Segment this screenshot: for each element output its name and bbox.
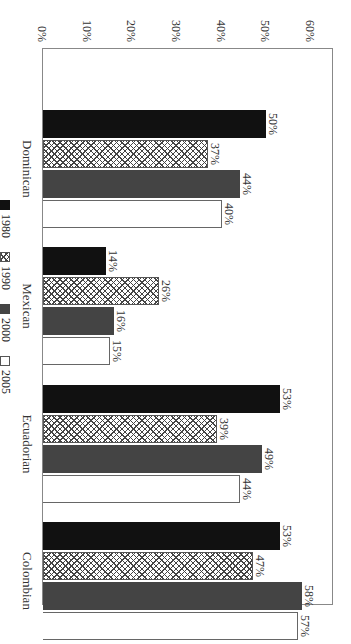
category-label: Dominican (19, 114, 35, 224)
bar-ecuadorian-1980 (43, 385, 280, 413)
y-tick-label: 0% (36, 4, 48, 42)
legend: 1980 1990 2000 2005 (0, 200, 13, 394)
legend-swatch-2000 (1, 304, 11, 314)
legend-item-2005: 2005 (0, 356, 13, 394)
bar-mexican-2000 (43, 307, 114, 335)
value-label: 15% (111, 331, 123, 371)
bar-dominican-2005 (43, 200, 222, 228)
bar-colombian-1980 (43, 522, 280, 550)
bar-dominican-1980 (43, 110, 266, 138)
bar-mexican-2005 (43, 337, 110, 365)
value-label: 57% (299, 606, 311, 644)
y-tick-label: 40% (215, 4, 227, 42)
value-label: 14% (107, 241, 119, 281)
value-label: 53% (281, 516, 293, 556)
value-label: 40% (223, 194, 235, 234)
legend-swatch-1980 (1, 200, 11, 210)
bar-colombian-2000 (43, 582, 302, 610)
plot-area: 50%37%44%40%14%26%16%15%53%39%49%44%53%4… (42, 48, 333, 605)
category-label: Colombian (19, 526, 35, 636)
value-label: 50% (267, 104, 279, 144)
bar-mexican-1980 (43, 247, 106, 275)
legend-label: 2005 (0, 370, 13, 394)
value-label: 37% (209, 134, 221, 174)
category-label: Ecuadorian (19, 389, 35, 499)
bar-colombian-1990 (43, 552, 253, 580)
value-label: 49% (263, 439, 275, 479)
value-label: 39% (218, 409, 230, 449)
y-tick-label: 30% (170, 4, 182, 42)
bar-ecuadorian-2005 (43, 475, 240, 503)
legend-swatch-1990 (1, 252, 11, 262)
bar-ecuadorian-2000 (43, 445, 262, 473)
value-label: 44% (241, 164, 253, 204)
value-label: 44% (241, 469, 253, 509)
y-tick-label: 50% (259, 4, 271, 42)
legend-item-1980: 1980 (0, 200, 13, 238)
bar-mexican-1990 (43, 277, 159, 305)
legend-label: 2000 (0, 318, 13, 342)
legend-swatch-2005 (1, 356, 11, 366)
legend-label: 1980 (0, 214, 13, 238)
bar-ecuadorian-1990 (43, 415, 217, 443)
bar-dominican-1990 (43, 140, 208, 168)
legend-item-1990: 1990 (0, 252, 13, 290)
y-tick-label: 10% (81, 4, 93, 42)
y-tick-label: 60% (304, 4, 316, 42)
legend-item-2000: 2000 (0, 304, 13, 342)
value-label: 26% (160, 271, 172, 311)
bar-dominican-2000 (43, 170, 240, 198)
category-label: Mexican (19, 251, 35, 361)
legend-label: 1990 (0, 266, 13, 290)
bar-colombian-2005 (43, 612, 298, 640)
value-label: 47% (254, 546, 266, 586)
y-tick-label: 20% (125, 4, 137, 42)
value-label: 53% (281, 379, 293, 419)
